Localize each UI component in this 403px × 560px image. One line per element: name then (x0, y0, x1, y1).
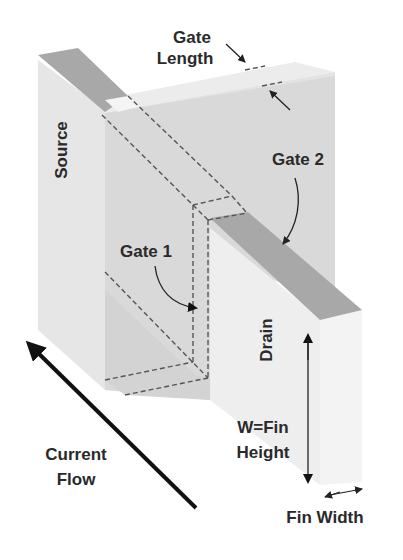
source-label: Source (52, 110, 72, 190)
drain-label: Drain (257, 305, 277, 375)
fin-height-label-line1: W=Fin (223, 418, 303, 438)
fin-width-label: Fin Width (270, 508, 380, 528)
gate-2-label: Gate 2 (258, 150, 338, 170)
gate-length-label-line1: Gate (152, 28, 232, 48)
current-flow-label-line2: Flow (26, 470, 126, 490)
fin-width-arrow (325, 489, 362, 497)
finfet-diagram: Gate Length Source Gate 2 Gate 1 Drain C… (0, 0, 403, 560)
fin-height-label-line2: Height (223, 443, 303, 463)
gate-length-label-line2: Length (140, 49, 230, 69)
current-flow-label-line1: Current (26, 445, 126, 465)
gate-1-label: Gate 1 (106, 242, 186, 262)
